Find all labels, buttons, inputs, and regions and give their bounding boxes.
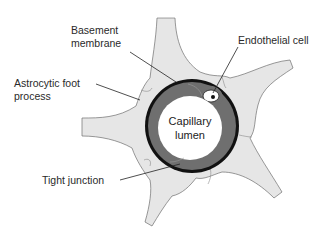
label-tight-junction: Tight junction	[42, 174, 104, 187]
label-astrocytic-foot-process: Astrocytic foot process	[14, 77, 80, 103]
label-basement-membrane: Basement membrane	[71, 24, 121, 50]
label-endothelial-cell: Endothelial cell	[238, 34, 309, 47]
leader-astrocytic-foot-process	[96, 84, 140, 100]
label-capillary-lumen: Capillary lumen	[165, 114, 215, 142]
